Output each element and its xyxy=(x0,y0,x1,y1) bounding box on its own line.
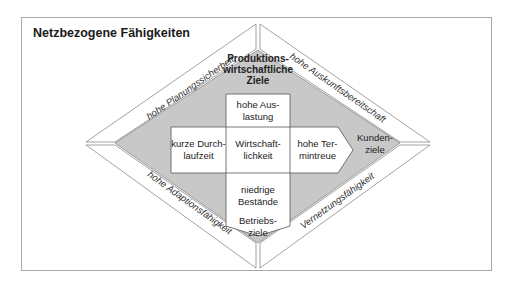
cross-durchlaufzeit: kurze Durch- laufzeit xyxy=(171,138,226,161)
goal-betrieb: Betriebs- ziele xyxy=(228,215,288,238)
cross-auslastung: hohe Aus- lastung xyxy=(226,99,290,122)
cross-bestaende: niedrige Bestände xyxy=(226,184,290,207)
cross-wirtschaftlichkeit: Wirtschaft- lichkeit xyxy=(226,138,290,161)
cross-termintreue: hohe Ter- mintreue xyxy=(290,138,345,161)
goal-kunden: Kunden- ziele xyxy=(350,132,400,155)
goal-produktion: Produktions- wirtschaftliche Ziele xyxy=(208,53,308,86)
